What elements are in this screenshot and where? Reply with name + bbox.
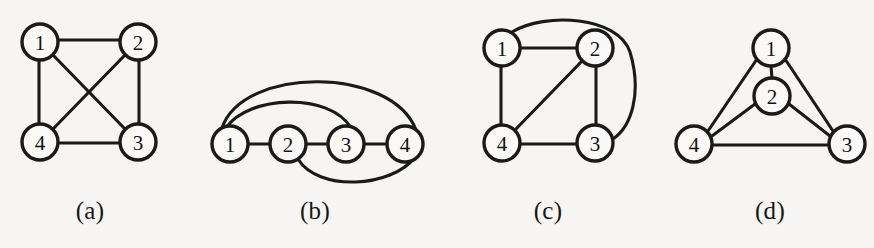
- edge-b-1-4-arc-above: [222, 82, 416, 130]
- edge-d-2-3: [789, 104, 830, 136]
- node-b-2: 2: [270, 126, 306, 162]
- node-circle: [676, 126, 712, 162]
- node-circle: [829, 126, 865, 162]
- edge-d-1-4: [708, 59, 757, 131]
- node-label: 4: [689, 133, 700, 157]
- node-label: 3: [590, 132, 601, 156]
- panel-c-graph: 1 2 3 4: [484, 20, 635, 161]
- node-circle: [753, 30, 789, 66]
- node-label: 4: [400, 133, 411, 157]
- node-label: 4: [497, 132, 508, 156]
- panel-caption-d: (d): [730, 198, 810, 223]
- node-label: 2: [767, 85, 778, 109]
- node-circle: [270, 126, 306, 162]
- panel-b-graph: 1 2 3 4: [212, 82, 423, 182]
- node-c-1: 1: [484, 30, 520, 66]
- figure-container: 1 2 3 4 1: [0, 0, 874, 248]
- node-c-3: 3: [577, 125, 613, 161]
- node-label: 3: [133, 131, 144, 155]
- node-a-3: 3: [120, 124, 156, 160]
- node-d-4: 4: [676, 126, 712, 162]
- node-circle: [120, 24, 156, 60]
- node-circle: [22, 24, 58, 60]
- edge-a-2-4: [53, 55, 125, 129]
- panel-caption-c: (c): [508, 198, 588, 223]
- panel-caption-b: (b): [275, 198, 355, 223]
- node-circle: [577, 30, 613, 66]
- node-a-4: 4: [22, 124, 58, 160]
- node-label: 1: [766, 37, 777, 61]
- node-circle: [22, 124, 58, 160]
- node-c-4: 4: [484, 125, 520, 161]
- node-d-2: 2: [754, 78, 790, 114]
- panel-caption-a: (a): [50, 198, 130, 223]
- edge-c-1-3-curve-outside: [512, 20, 635, 139]
- node-circle: [754, 78, 790, 114]
- node-circle: [212, 126, 248, 162]
- node-b-1: 1: [212, 126, 248, 162]
- node-b-4: 4: [387, 126, 423, 162]
- node-label: 1: [225, 133, 236, 157]
- node-d-3: 3: [829, 126, 865, 162]
- edge-b-1-3-arc-above: [226, 102, 351, 128]
- node-label: 1: [497, 37, 508, 61]
- node-label: 1: [35, 31, 46, 55]
- edge-d-2-4: [712, 104, 755, 136]
- edge-d-1-2: [771, 66, 772, 78]
- node-d-1: 1: [753, 30, 789, 66]
- node-label: 2: [283, 133, 294, 157]
- node-label: 3: [341, 133, 352, 157]
- node-circle: [484, 125, 520, 161]
- edge-a-1-3: [53, 55, 125, 129]
- edge-c-2-4: [515, 61, 582, 130]
- node-circle: [577, 125, 613, 161]
- node-circle: [484, 30, 520, 66]
- node-c-2: 2: [577, 30, 613, 66]
- node-label: 2: [590, 37, 601, 61]
- edge-d-1-3: [785, 59, 833, 131]
- node-circle: [120, 124, 156, 160]
- node-b-3: 3: [328, 126, 364, 162]
- node-a-2: 2: [120, 24, 156, 60]
- node-circle: [328, 126, 364, 162]
- edge-b-2-4-arc-below: [298, 157, 415, 182]
- node-label: 4: [35, 131, 46, 155]
- node-label: 2: [133, 31, 144, 55]
- node-circle: [387, 126, 423, 162]
- panel-a-graph: 1 2 3 4: [22, 24, 156, 160]
- panel-d-graph: 1 2 3 4: [676, 30, 865, 162]
- node-a-1: 1: [22, 24, 58, 60]
- node-label: 3: [842, 133, 853, 157]
